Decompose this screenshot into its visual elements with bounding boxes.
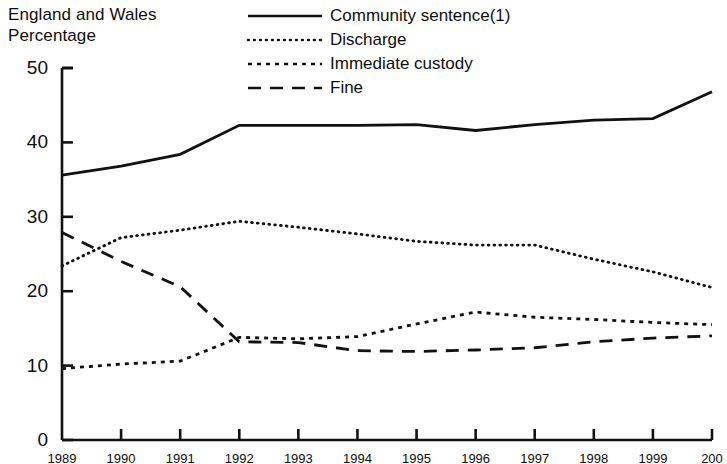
y-axis-ticks: [62, 68, 73, 440]
x-axis-ticks: [121, 429, 712, 440]
y-axis-tick-label: 40: [14, 132, 48, 151]
y-axis-tick-label: 20: [14, 281, 48, 300]
series-line-discharge: [62, 221, 712, 287]
series-line-community-sentence-1: [62, 92, 712, 175]
data-series-group: [62, 92, 712, 369]
x-axis-tick-label: 1990: [95, 452, 147, 464]
y-axis-tick-label: 30: [14, 207, 48, 226]
x-axis-tick-label: 1991: [154, 452, 206, 464]
y-axis-tick-label: 50: [14, 58, 48, 77]
x-axis-tick-label: 1995: [391, 452, 443, 464]
y-axis-tick-label: 10: [14, 356, 48, 375]
x-axis-tick-label: 1993: [272, 452, 324, 464]
x-axis-tick-label: 200: [686, 452, 727, 464]
series-line-immediate-custody: [62, 312, 712, 369]
x-axis-tick-label: 1989: [36, 452, 88, 464]
x-axis-tick-label: 1998: [568, 452, 620, 464]
y-axis-tick-label: 0: [14, 430, 48, 449]
x-axis-tick-label: 1999: [627, 452, 679, 464]
x-axis-tick-label: 1996: [450, 452, 502, 464]
x-axis-tick-label: 1992: [213, 452, 265, 464]
x-axis-tick-label: 1997: [509, 452, 561, 464]
x-axis-tick-label: 1994: [331, 452, 383, 464]
series-line-fine: [62, 232, 712, 351]
